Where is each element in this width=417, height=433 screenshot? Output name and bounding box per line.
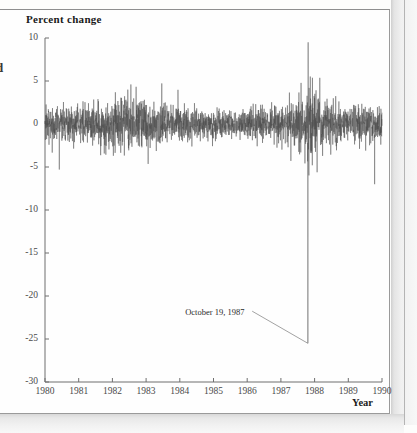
x-axis-title: Year [352,397,373,408]
crash-annotation-label: October 19, 1987 [185,307,244,317]
plot-canvas [0,0,390,414]
y-tick-label: 10 [14,32,38,42]
x-tick-label: 1990 [362,386,402,396]
axes-group [45,38,382,382]
data-series-line [45,42,382,343]
y-tick-label: -15 [14,247,38,257]
y-tick-label: -20 [14,290,38,300]
page-edge-right-line [404,0,405,425]
page-edge-bottom-shadow [0,414,404,433]
crash-annotation-leader-line [252,311,308,343]
y-tick-label: -25 [14,333,38,343]
scanned-page: d Percent change Year 1050-5-10-15-20-25… [0,0,417,433]
y-axis-title: Percent change [26,13,102,25]
y-tick-label: 5 [14,75,38,85]
y-tick-label: -10 [14,204,38,214]
y-tick-label: 0 [14,118,38,128]
data-series-group [45,42,382,343]
y-tick-label: -30 [14,376,38,386]
percent-change-chart: Percent change Year 1050-5-10-15-20-25-3… [0,0,390,414]
annotation-leader-group [252,311,308,343]
y-tick-label: -5 [14,161,38,171]
